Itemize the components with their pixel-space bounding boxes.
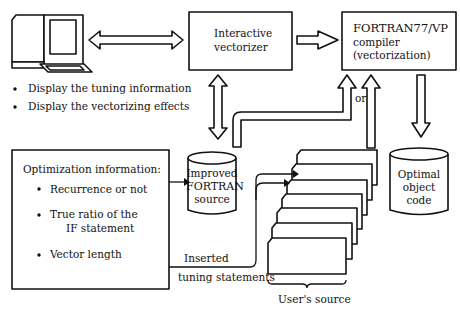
compiler-label-3: (vectorization)	[353, 49, 431, 62]
or-label: or	[355, 92, 366, 105]
user-source-stack	[268, 150, 377, 274]
users-source-label: User's source	[278, 293, 351, 306]
terminal-bullet-1: Display the tuning information	[28, 82, 191, 95]
terminal-bullet-2: Display the vectorizing effects	[28, 100, 189, 113]
users-source-brace	[268, 280, 346, 288]
inserted-label: Inserted	[184, 252, 229, 265]
vectorizer-label-2: vectorizer	[214, 41, 268, 54]
opt-item-if-statement: IF statement	[66, 222, 134, 235]
vectorizer-label-1: Interactive	[214, 27, 272, 40]
opt-item-true-ratio: True ratio of the	[50, 208, 138, 221]
double-arrow-terminal-vectorizer	[89, 31, 183, 49]
computer-terminal-icon	[12, 15, 92, 72]
arrow-source-compiler	[233, 75, 356, 147]
opt-item-recurrence: Recurrence or not	[50, 183, 147, 196]
objectcode-label-3: code	[392, 194, 446, 207]
arrow-compiler-objectcode	[412, 75, 430, 137]
diagram: Display the tuning information Display t…	[0, 0, 460, 314]
optimization-title: Optimization information:	[23, 163, 161, 176]
compiler-label-1: FORTRAN77/VP	[353, 22, 448, 35]
opt-item-vector-length: Vector length	[50, 248, 122, 261]
source-label-1: Improved	[186, 167, 238, 180]
source-label-2: FORTRAN	[186, 180, 238, 193]
arrow-usersource-compiler	[362, 75, 380, 148]
objectcode-label-2: object	[392, 181, 446, 194]
objectcode-label-1: Optimal	[392, 168, 446, 181]
source-label-3: source	[186, 193, 238, 206]
arrow-vectorizer-compiler	[297, 31, 338, 49]
compiler-label-2: compiler	[353, 36, 400, 49]
tuning-statements-label: tuning statements	[178, 271, 275, 284]
double-arrow-vectorizer-source	[209, 75, 227, 139]
